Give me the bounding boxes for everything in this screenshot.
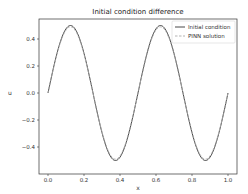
legend: Initial condition PINN solution [172,21,235,43]
x-tick-label: 0.6 [152,177,161,183]
legend-label: Initial condition [188,24,231,30]
series-pinn-solution [48,27,228,159]
x-tick-label: 1.0 [224,177,233,183]
y-tick-label: −0.2 [22,117,35,123]
x-axis-label: x [136,184,140,191]
x-tick-label: 0.8 [188,177,197,183]
chart: Initial condition difference −0.4−0.20.0… [0,0,248,194]
x-tick-label: 0.4 [116,177,125,183]
y-tick-label: −0.4 [22,144,36,150]
y-tick-label: 0.0 [26,90,35,96]
y-tick-label: 0.4 [26,36,35,42]
chart-title: Initial condition difference [92,8,183,16]
y-axis-label: u [8,89,12,96]
x-tick-label: 0.2 [80,177,89,183]
y-tick-label: 0.2 [26,63,35,69]
y-axis: −0.4−0.20.00.20.4 [22,36,39,150]
x-axis: 0.00.20.40.60.81.0 [44,174,233,183]
x-tick-label: 0.0 [44,177,53,183]
legend-label: PINN solution [188,33,225,39]
